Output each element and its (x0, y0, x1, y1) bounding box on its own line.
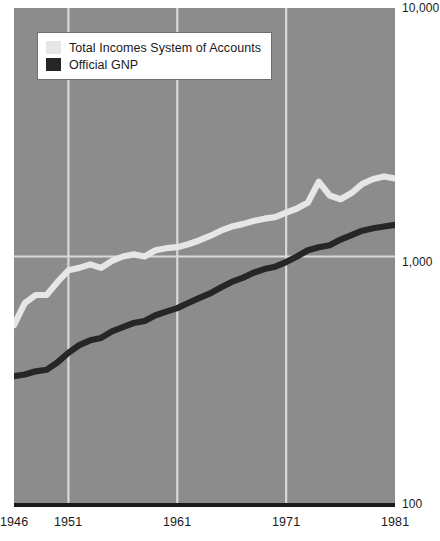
y-tick-label-1000: 1,000 (402, 256, 433, 269)
x-tick-label-1961: 1961 (163, 515, 191, 529)
y-tick-label-10000: 10,000 (402, 2, 439, 15)
x-tick-label-1971: 1971 (272, 515, 300, 529)
series-line-official-gnp (14, 225, 395, 376)
x-tick-label-1951: 1951 (54, 515, 82, 529)
chart-canvas (14, 8, 395, 505)
legend-swatch-icon-official-gnp (46, 58, 61, 71)
legend-label-official-gnp: Official GNP (69, 58, 138, 72)
legend-label-total-incomes: Total Incomes System of Accounts (69, 41, 261, 55)
plot-area (14, 8, 395, 505)
x-tick-label-1946: 1946 (0, 515, 28, 529)
legend-item-official-gnp: Official GNP (46, 56, 261, 73)
x-axis-rule (14, 503, 395, 507)
chart-figure: 10,000 1,000 100 1946 1951 1961 1971 198… (0, 0, 440, 541)
legend-item-total-incomes: Total Incomes System of Accounts (46, 39, 261, 56)
legend-swatch-icon-total-incomes (46, 41, 61, 54)
chart-legend: Total Incomes System of Accounts Officia… (37, 32, 272, 80)
series-line-total-incomes (14, 176, 395, 325)
x-tick-label-1981: 1981 (381, 515, 409, 529)
y-tick-label-100: 100 (402, 498, 422, 511)
